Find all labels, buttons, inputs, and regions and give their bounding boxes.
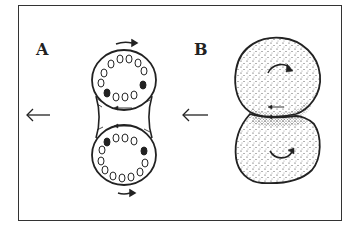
vesicle-ring-top (98, 55, 147, 101)
sphere-pair-b (235, 38, 320, 183)
left-arrow-icon-b (183, 109, 208, 121)
diagram-canvas (0, 0, 354, 235)
vesicle-ring-bottom (98, 134, 148, 182)
left-arrow-icon-a (27, 109, 50, 121)
rotation-arrows-a (114, 40, 137, 196)
